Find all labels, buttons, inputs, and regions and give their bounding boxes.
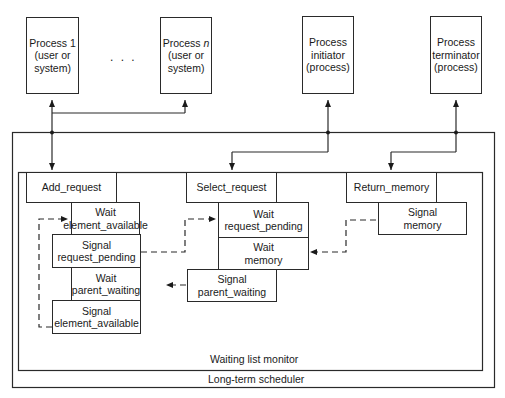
signal-parent-waiting-box: Signal parent_waiting: [187, 269, 277, 302]
process-1-line1: Process 1: [29, 37, 76, 50]
wait-element-available-line2: element_available: [63, 219, 148, 232]
process-n-variable: n: [204, 37, 210, 49]
process-1-box: Process 1 (user or system): [26, 17, 79, 94]
wait-element-available-box: Wait element_available: [71, 202, 140, 235]
wait-memory-box: Wait memory: [218, 237, 309, 270]
process-initiator-line2: initiator: [311, 49, 345, 62]
wait-memory-line1: Wait: [253, 241, 274, 254]
process-initiator-line3: (process): [306, 61, 350, 74]
wait-parent-waiting-box: Wait parent_waiting: [71, 267, 141, 301]
signal-request-pending-box: Signal request_pending: [52, 234, 141, 268]
process-n-line1: Process n: [163, 37, 210, 50]
signal-parent-waiting-line2: parent_waiting: [198, 286, 266, 299]
process-terminator-line2: terminator: [432, 49, 479, 62]
process-n-box: Process n (user or system): [160, 17, 212, 94]
return-memory-label: Return_memory: [354, 181, 429, 194]
wait-parent-waiting-line2: parent_waiting: [72, 284, 140, 297]
process-terminator-box: Process terminator (process): [430, 16, 482, 94]
signal-element-available-box: Signal element_available: [52, 300, 141, 334]
wait-request-pending-line2: request_pending: [224, 220, 302, 233]
signal-request-pending-line2: request_pending: [57, 251, 135, 264]
signal-parent-waiting-line1: Signal: [217, 273, 246, 286]
signal-request-pending-line1: Signal: [82, 239, 111, 252]
signal-memory-line1: Signal: [408, 206, 437, 219]
ellipsis: . . .: [110, 50, 137, 64]
process-terminator-line3: (process): [434, 61, 478, 74]
select-request-label: Select_request: [196, 181, 266, 194]
add-request-label: Add_request: [42, 181, 102, 194]
monitor-label: Waiting list monitor: [210, 353, 298, 365]
process-initiator-line1: Process: [309, 36, 347, 49]
select-request-box: Select_request: [186, 172, 277, 203]
signal-element-available-line1: Signal: [82, 305, 111, 318]
wait-parent-waiting-line1: Wait: [96, 272, 117, 285]
process-n-line3: system): [168, 62, 205, 75]
wait-memory-line2: memory: [245, 254, 283, 267]
signal-element-available-line2: element_available: [54, 317, 139, 330]
scheduler-label: Long-term scheduler: [208, 373, 304, 385]
process-initiator-box: Process initiator (process): [302, 16, 354, 94]
process-1-line3: system): [34, 62, 71, 75]
return-memory-box: Return_memory: [346, 172, 437, 203]
wait-element-available-line1: Wait: [95, 206, 116, 219]
process-terminator-line1: Process: [437, 36, 475, 49]
wait-request-pending-box: Wait request_pending: [218, 202, 309, 238]
signal-memory-line2: memory: [404, 219, 442, 232]
signal-memory-box: Signal memory: [378, 202, 467, 235]
wait-request-pending-line1: Wait: [253, 208, 274, 221]
process-1-line2: (user or: [34, 49, 70, 62]
add-request-box: Add_request: [26, 172, 117, 203]
process-n-line2: (user or: [168, 49, 204, 62]
